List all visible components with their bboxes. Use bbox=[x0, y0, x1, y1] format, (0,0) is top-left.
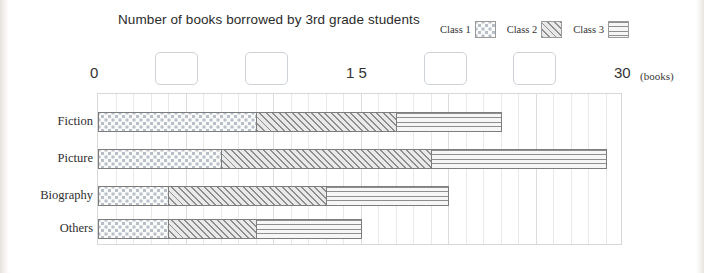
y-axis-label-picture: Picture bbox=[58, 151, 93, 166]
grid-line bbox=[606, 94, 607, 244]
x-axis-label-15: 1 5 bbox=[346, 64, 367, 81]
y-axis-label-fiction: Fiction bbox=[58, 114, 93, 129]
legend-label-class-3: Class 3 bbox=[573, 24, 604, 35]
grid-line bbox=[518, 94, 519, 244]
bar-row bbox=[98, 149, 607, 169]
bar-segment bbox=[98, 186, 169, 206]
legend-swatch-dots-icon bbox=[475, 21, 496, 38]
grid-line bbox=[588, 94, 589, 244]
bar-row bbox=[98, 186, 449, 206]
answer-blank-2[interactable] bbox=[245, 52, 288, 85]
chart-plot-area bbox=[97, 93, 622, 245]
bar-segment bbox=[98, 219, 169, 239]
chart-title: Number of books borrowed by 3rd grade st… bbox=[118, 12, 420, 27]
legend-entry-class-3: Class 3 bbox=[573, 21, 629, 38]
chart-page: Number of books borrowed by 3rd grade st… bbox=[0, 0, 704, 273]
legend-swatch-horizontal-icon bbox=[608, 21, 629, 38]
x-axis-label-0: 0 bbox=[90, 64, 98, 81]
grid-line bbox=[571, 94, 572, 244]
bar-segment bbox=[396, 112, 502, 132]
bar-segment bbox=[221, 149, 432, 169]
grid-line bbox=[553, 94, 554, 244]
legend-label-class-2: Class 2 bbox=[507, 24, 538, 35]
bar-segment bbox=[98, 112, 257, 132]
chart-legend: Class 1 Class 2 Class 3 bbox=[440, 21, 629, 38]
legend-swatch-diagonal-icon bbox=[541, 21, 562, 38]
bar-row bbox=[98, 112, 502, 132]
x-axis-label-30: 30 bbox=[614, 64, 631, 81]
x-axis-unit-label: (books) bbox=[640, 70, 674, 82]
bar-segment bbox=[431, 149, 607, 169]
bar-segment bbox=[98, 149, 222, 169]
answer-blank-4[interactable] bbox=[513, 52, 556, 85]
legend-entry-class-2: Class 2 bbox=[507, 21, 563, 38]
bar-segment bbox=[256, 219, 362, 239]
bar-segment bbox=[168, 219, 257, 239]
bar-segment bbox=[168, 186, 327, 206]
answer-blank-3[interactable] bbox=[424, 52, 467, 85]
y-axis-category-labels: FictionPictureBiographyOthers bbox=[0, 93, 93, 245]
bar-segment bbox=[326, 186, 450, 206]
grid-line bbox=[536, 94, 537, 244]
y-axis-label-biography: Biography bbox=[40, 188, 93, 203]
y-axis-label-others: Others bbox=[60, 221, 93, 236]
legend-entry-class-1: Class 1 bbox=[440, 21, 496, 38]
legend-label-class-1: Class 1 bbox=[440, 24, 471, 35]
bar-row bbox=[98, 219, 362, 239]
answer-blank-1[interactable] bbox=[155, 52, 198, 85]
bar-segment bbox=[256, 112, 397, 132]
